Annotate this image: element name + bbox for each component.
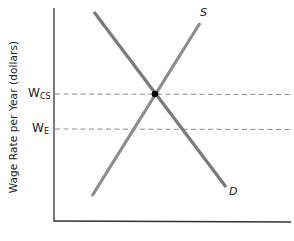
we-sub: E xyxy=(44,127,49,136)
wcs-dashed-line xyxy=(55,94,290,95)
x-axis xyxy=(54,221,292,222)
wcs-tick-label: WCS xyxy=(28,87,51,101)
supply-label: S xyxy=(200,7,207,18)
we-dashed-line xyxy=(55,129,290,130)
wcs-main: W xyxy=(28,86,40,100)
wcs-sub: CS xyxy=(40,92,51,101)
labor-market-chart xyxy=(0,0,294,241)
supply-curve xyxy=(92,23,200,196)
we-tick-label: WE xyxy=(32,122,49,136)
y-axis-label: Wage Rate per Year (dollars) xyxy=(7,41,19,194)
equilibrium-point xyxy=(152,91,159,98)
demand-label: D xyxy=(229,186,237,197)
we-main: W xyxy=(32,121,44,135)
